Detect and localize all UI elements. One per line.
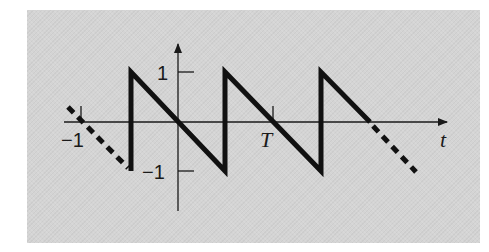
sawtooth-dashed-right — [373, 126, 416, 172]
y-label-neg1: −1 — [142, 161, 165, 183]
y-label-1: 1 — [157, 62, 168, 84]
sawtooth-chart: 1 −1 −1 T t — [0, 0, 489, 252]
x-axis-label-t: t — [440, 127, 447, 152]
x-label-T: T — [260, 127, 274, 152]
x-label-neg1: −1 — [61, 129, 84, 151]
